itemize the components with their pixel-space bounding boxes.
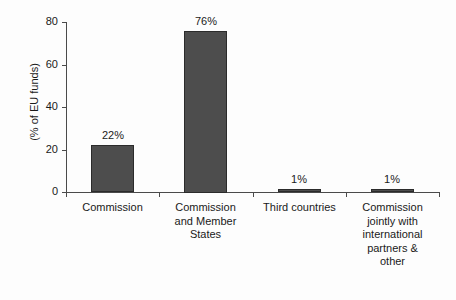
y-tick-label-wrap: 80 [18,16,58,27]
category-label: Third countries [253,201,346,215]
y-tick-mark [62,150,66,151]
x-tick-mark [159,192,160,197]
y-tick-mark [62,22,66,23]
y-tick-mark [62,107,66,108]
bar-value-label: 22% [83,129,143,141]
x-tick-mark [253,192,254,197]
category-label-line: other [346,255,439,269]
category-label-line: States [159,228,252,242]
y-tick-label: 40 [18,101,58,112]
category-label: Commission [66,201,159,215]
y-tick-label-wrap: 20 [18,144,58,155]
bar-value-label: 1% [269,173,329,185]
bar-value-label: 76% [176,15,236,27]
y-tick-label: 80 [18,16,58,27]
category-label-line: jointly with [346,215,439,229]
y-tick-label: 0 [18,186,58,197]
bar [91,145,134,192]
y-tick-label-wrap: 60 [18,59,58,70]
category-label-line: partners & [346,242,439,256]
bar-chart-plot-area: (% of EU funds) 020406080 22%76%1%1% Com… [0,0,456,300]
category-label-line: Commission [66,201,159,215]
category-label: Commissionjointly withinternationalpartn… [346,201,439,269]
y-tick-label-wrap: 40 [18,101,58,112]
bar-value-label: 1% [362,173,422,185]
bar [184,31,227,193]
y-tick-label: 60 [18,59,58,70]
y-tick-label-wrap: 0 [18,186,58,197]
category-label-line: Third countries [253,201,346,215]
category-label: Commissionand MemberStates [159,201,252,242]
bar [278,189,321,192]
y-tick-label: 20 [18,144,58,155]
x-tick-mark [346,192,347,197]
x-tick-mark [439,192,440,197]
chart-screenshot: (% of EU funds) 020406080 22%76%1%1% Com… [0,0,456,300]
x-tick-mark [66,192,67,197]
category-label-line: Commission [159,201,252,215]
bar [371,189,414,192]
y-tick-mark [62,65,66,66]
y-axis-line [66,22,67,193]
category-label-line: international [346,228,439,242]
category-label-line: Commission [346,201,439,215]
category-label-line: and Member [159,215,252,229]
